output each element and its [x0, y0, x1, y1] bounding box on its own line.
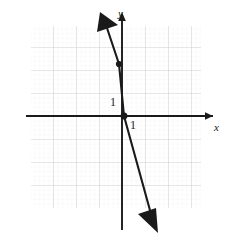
x-unit-tick-label: 1 [130, 119, 136, 131]
x-axis-label: x [214, 122, 219, 133]
coordinate-plane-figure: y x 1 1 [0, 0, 234, 241]
line-arrowhead-bottom [138, 208, 158, 233]
graph-canvas [0, 0, 234, 241]
point-marker [121, 113, 128, 120]
x-axis-arrowhead [205, 112, 213, 120]
y-unit-tick-label: 1 [110, 96, 116, 108]
y-axis-label: y [118, 8, 123, 19]
point-marker [116, 61, 122, 67]
